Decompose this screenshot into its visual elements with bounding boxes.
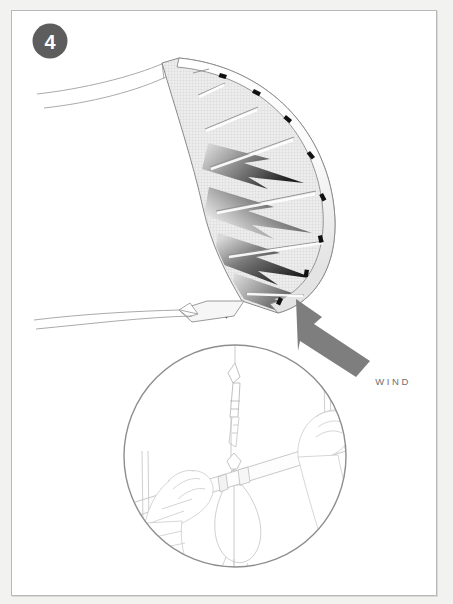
wind-arrow-icon [296,299,370,377]
illustration-frame: 4 [11,10,437,596]
wind-label: WIND [375,376,411,387]
page-root: 4 [0,0,453,604]
step-number-badge: 4 [33,24,68,59]
instruction-illustration: 4 [12,11,436,595]
kite-flying-lines-upper [37,63,170,108]
kite-flying-lines-lower [34,310,198,329]
kite-body [162,58,335,323]
step-number-label: 4 [44,31,56,53]
detail-inset-circle [124,337,360,583]
wind-indicator: WIND [296,299,411,387]
